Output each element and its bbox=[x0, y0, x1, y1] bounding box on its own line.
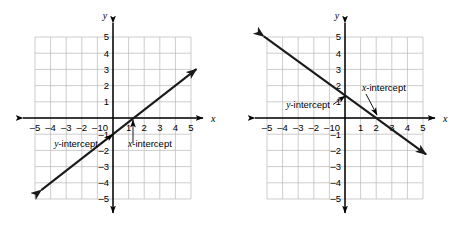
graph-figure: xy–5–4–3–2–101234554321–1–2–3–4–5y-inter… bbox=[0, 0, 467, 226]
annotation-suffix: -intercept bbox=[366, 82, 406, 93]
y-tick-label: 3 bbox=[336, 64, 341, 75]
y-axis-label-left: y bbox=[102, 10, 108, 21]
x-tick-label: –4 bbox=[277, 122, 288, 133]
y-tick-label: –5 bbox=[98, 193, 109, 204]
y-tick-label: –3 bbox=[330, 161, 341, 172]
annotation-suffix: -intercept bbox=[290, 99, 330, 110]
y-tick-label: 1 bbox=[104, 96, 109, 107]
x-tick-label: 4 bbox=[405, 122, 410, 133]
x-tick-label: 5 bbox=[420, 122, 425, 133]
y-tick-label: 5 bbox=[336, 31, 341, 42]
x-tick-label: –3 bbox=[61, 122, 72, 133]
x-tick-label: 2 bbox=[142, 122, 147, 133]
y-tick-label: –5 bbox=[330, 193, 341, 204]
y-tick-label: 5 bbox=[104, 31, 109, 42]
annotation-x-intercept-left: x-intercept bbox=[127, 138, 172, 149]
coordinate-plane-pair: xy–5–4–3–2–101234554321–1–2–3–4–5y-inter… bbox=[0, 0, 467, 226]
panel-left: xy–5–4–3–2–101234554321–1–2–3–4–5y-inter… bbox=[23, 10, 216, 213]
y-tick-label: –3 bbox=[98, 161, 109, 172]
x-tick-label: 5 bbox=[188, 122, 193, 133]
y-tick-label: 4 bbox=[336, 48, 341, 59]
x-tick-label: –4 bbox=[45, 122, 56, 133]
y-axis-label-right: y bbox=[334, 10, 340, 21]
x-tick-label: 2 bbox=[374, 122, 379, 133]
annotation-y-intercept-right: y-intercept bbox=[285, 99, 330, 110]
x-tick-label: –2 bbox=[309, 122, 320, 133]
x-tick-label: 1 bbox=[358, 122, 363, 133]
x-tick-label: 3 bbox=[157, 122, 162, 133]
y-tick-label: –2 bbox=[330, 145, 341, 156]
annotation-suffix: -intercept bbox=[132, 138, 172, 149]
panel-right: xy–5–4–3–2–101234554321–1–2–3–4–5y-inter… bbox=[255, 10, 448, 213]
annotation-y-intercept-left: y-intercept bbox=[53, 138, 98, 149]
y-tick-label: 3 bbox=[104, 64, 109, 75]
x-tick-label: –5 bbox=[262, 122, 273, 133]
x-tick-label: –3 bbox=[293, 122, 304, 133]
x-axis-label-right: x bbox=[442, 113, 448, 124]
y-tick-label: –1 bbox=[330, 129, 341, 140]
x-tick-label: –2 bbox=[77, 122, 88, 133]
y-tick-label: 2 bbox=[104, 80, 109, 91]
y-tick-label: 4 bbox=[104, 48, 109, 59]
x-axis-label-left: x bbox=[210, 113, 216, 124]
x-tick-label: 4 bbox=[173, 122, 178, 133]
annotation-x-intercept-right: x-intercept bbox=[361, 82, 406, 93]
x-tick-label: –5 bbox=[30, 122, 41, 133]
y-tick-label: –2 bbox=[98, 145, 109, 156]
y-tick-label: –4 bbox=[98, 177, 109, 188]
annotation-suffix: -intercept bbox=[58, 138, 98, 149]
y-tick-label: –4 bbox=[330, 177, 341, 188]
